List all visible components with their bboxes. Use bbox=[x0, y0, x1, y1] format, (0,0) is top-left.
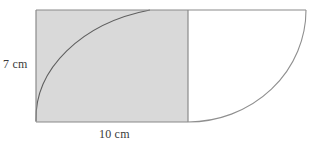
figure-canvas bbox=[0, 0, 318, 148]
shaded-rectangle bbox=[36, 10, 188, 122]
geometry-figure: 7 cm 10 cm bbox=[0, 0, 318, 148]
width-dimension-label: 10 cm bbox=[99, 127, 130, 142]
height-dimension-label: 7 cm bbox=[3, 57, 27, 72]
outer-quarter-arc bbox=[188, 10, 306, 122]
